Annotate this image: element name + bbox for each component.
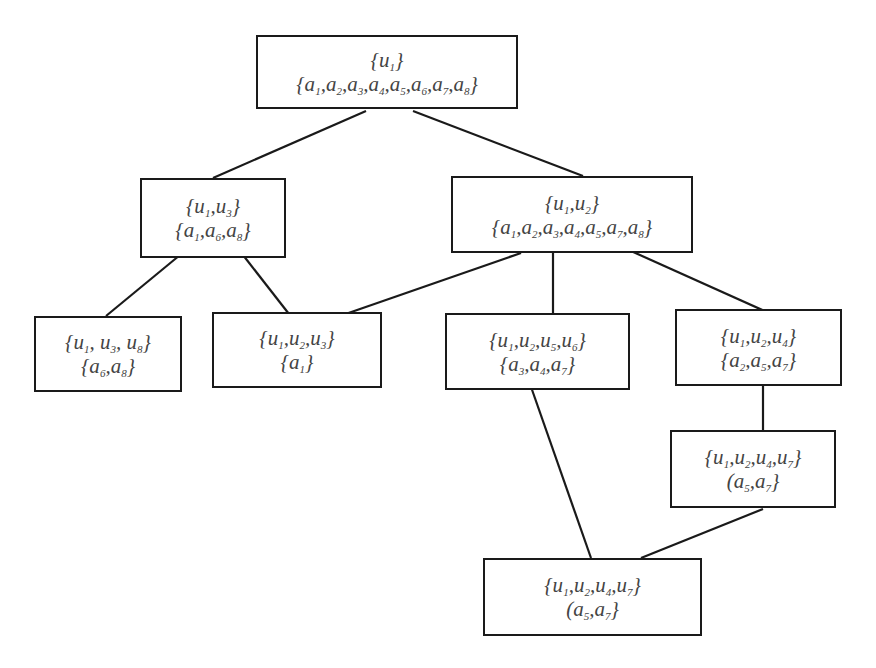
symbol: {a	[721, 348, 740, 372]
lattice-node-n8: {u1,u2,u4,u7}(a5,a7}	[670, 430, 836, 508]
symbol: {u	[705, 445, 724, 469]
edge-n2-n5	[243, 255, 289, 314]
node-attributes-label: {a1,a2,a3,a4,a5,a6,a7,a8}	[296, 72, 478, 96]
symbol: a	[772, 348, 783, 372]
separator: }	[305, 350, 313, 374]
separator: }	[788, 324, 796, 348]
edge-n8-n9	[641, 509, 763, 558]
separator: }	[469, 72, 477, 96]
symbol: u	[100, 330, 111, 354]
node-objects-label: {u1}	[371, 48, 404, 72]
symbol: a	[522, 215, 533, 239]
symbol: {a	[492, 215, 511, 239]
symbol: a	[368, 72, 379, 96]
lattice-node-n3: {u1,u2}{a1,a2,a3,a4,a5,a7,a8}	[451, 176, 693, 253]
separator: }	[632, 573, 640, 597]
separator: }	[242, 218, 250, 242]
node-objects-label: {u1,u2}	[545, 191, 599, 215]
symbol: a	[551, 352, 562, 376]
symbol: u	[540, 328, 551, 352]
lattice-node-n4: {u1, u3, u8}{a6,a8}	[34, 316, 182, 392]
node-attributes-label: {a1,a6,a8}	[175, 218, 250, 242]
node-objects-label: {u1,u2,u3}	[259, 326, 334, 350]
separator: }	[591, 191, 599, 215]
lattice-node-n7: {u1,u2,u4}{a2,a5,a7}	[675, 309, 842, 386]
node-objects-label: {u1,u3}	[186, 194, 240, 218]
node-objects-label: {u1,u2,u4,u7}	[544, 573, 641, 597]
symbol: a	[607, 215, 618, 239]
symbol: a	[411, 72, 422, 96]
symbol: a	[390, 72, 401, 96]
symbol: {u	[186, 194, 205, 218]
symbol: a	[432, 72, 443, 96]
symbol: u	[289, 326, 300, 350]
symbol: {u	[489, 328, 508, 352]
edge-n3-n5	[337, 253, 521, 317]
node-attributes-label: {a1}	[281, 350, 314, 374]
lattice-node-n6: {u1,u2,u5,u6}{a3,a4,a7}	[445, 313, 630, 390]
symbol: u	[575, 191, 586, 215]
symbol: a	[453, 72, 464, 96]
symbol: a	[205, 218, 216, 242]
symbol: u	[751, 324, 762, 348]
lattice-node-n5: {u1,u2,u3}{a1}	[212, 312, 382, 388]
separator: ,	[116, 330, 127, 354]
symbol: a	[594, 597, 605, 621]
edge-n2-n4	[106, 255, 180, 316]
symbol: a	[111, 354, 122, 378]
separator: }	[326, 326, 334, 350]
separator: ,	[90, 330, 101, 354]
separator: }	[644, 215, 652, 239]
symbol: {u	[65, 330, 84, 354]
symbol: u	[595, 573, 606, 597]
node-objects-label: {u1,u2,u5,u6}	[489, 328, 586, 352]
symbol: a	[628, 215, 639, 239]
node-attributes-label: {a3,a4,a7}	[500, 352, 575, 376]
symbol: {a	[500, 352, 519, 376]
symbol: u	[574, 573, 585, 597]
separator: }	[610, 597, 618, 621]
separator: }	[127, 354, 135, 378]
symbol: a	[543, 215, 554, 239]
symbol: (a	[727, 469, 745, 493]
separator: }	[793, 445, 801, 469]
node-objects-label: {u1,u2,u4,u7}	[705, 445, 802, 469]
lattice-node-n1: {u1}{a1,a2,a3,a4,a5,a6,a7,a8}	[256, 35, 518, 109]
node-attributes-label: {a2,a5,a7}	[721, 348, 796, 372]
symbol: u	[616, 573, 627, 597]
symbol: a	[755, 469, 766, 493]
symbol: u	[561, 328, 572, 352]
node-objects-label: {u1,u2,u4}	[721, 324, 796, 348]
separator: }	[143, 330, 151, 354]
separator: }	[395, 48, 403, 72]
symbol: u	[519, 328, 530, 352]
symbol: {a	[81, 354, 100, 378]
symbol: u	[772, 324, 783, 348]
symbol: (a	[566, 597, 584, 621]
symbol: a	[226, 218, 237, 242]
symbol: a	[326, 72, 337, 96]
symbol: {u	[544, 573, 563, 597]
symbol: a	[347, 72, 358, 96]
edge-n6-n9	[530, 384, 591, 558]
node-attributes-label: {a1,a2,a3,a4,a5,a7,a8}	[492, 215, 652, 239]
separator: }	[232, 194, 240, 218]
separator: }	[577, 328, 585, 352]
symbol: a	[751, 348, 762, 372]
symbol: a	[530, 352, 541, 376]
separator: }	[788, 348, 796, 372]
symbol: {u	[259, 326, 278, 350]
separator: }	[771, 469, 779, 493]
symbol: {u	[721, 324, 740, 348]
symbol: u	[777, 445, 788, 469]
node-attributes-label: (a5,a7}	[566, 597, 619, 621]
symbol: {a	[175, 218, 194, 242]
symbol: {a	[296, 72, 315, 96]
edge-n1-n2	[213, 111, 366, 178]
symbol: u	[216, 194, 227, 218]
node-objects-label: {u1, u3, u8}	[65, 330, 151, 354]
symbol: {u	[545, 191, 564, 215]
symbol: u	[310, 326, 321, 350]
edge-n3-n7	[631, 251, 769, 313]
separator: }	[567, 352, 575, 376]
